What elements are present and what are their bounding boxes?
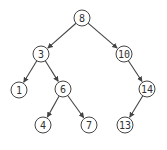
bst-diagram: 831016144713 <box>0 0 167 150</box>
edge-arrow <box>88 23 117 48</box>
node-label: 13 <box>119 120 131 131</box>
tree-node: 3 <box>33 46 49 62</box>
node-label: 4 <box>40 120 46 131</box>
tree-node: 7 <box>81 117 97 133</box>
tree-node: 1 <box>11 82 27 98</box>
tree-node: 14 <box>139 81 155 97</box>
tree-node: 6 <box>55 81 71 97</box>
edge-arrow <box>47 96 59 117</box>
node-label: 10 <box>118 49 130 60</box>
tree-node: 8 <box>74 10 90 26</box>
node-label: 14 <box>141 84 153 95</box>
node-label: 3 <box>38 49 44 60</box>
edge-arrow <box>48 23 76 48</box>
tree-node: 10 <box>116 46 132 62</box>
node-label: 6 <box>60 84 66 95</box>
edge-arrow <box>68 95 84 117</box>
edge-arrow <box>128 61 142 82</box>
node-label: 1 <box>16 85 22 96</box>
edges <box>24 23 143 117</box>
edge-arrow <box>130 96 143 117</box>
tree-node: 4 <box>35 117 51 133</box>
tree-node: 13 <box>117 117 133 133</box>
node-label: 8 <box>79 13 85 24</box>
nodes: 831016144713 <box>11 10 155 133</box>
edge-arrow <box>24 61 37 82</box>
node-label: 7 <box>86 120 92 131</box>
edge-arrow <box>45 61 58 82</box>
